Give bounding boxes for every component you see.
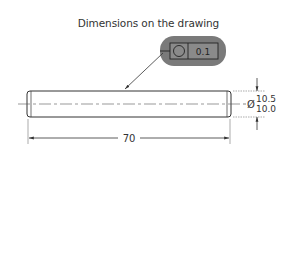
tolerance-value: 0.1 — [196, 47, 210, 57]
diameter-lower: 10.0 — [256, 104, 276, 114]
length-dimension: 70 — [28, 119, 230, 144]
length-value: 70 — [123, 133, 136, 144]
diameter-upper: 10.5 — [256, 94, 276, 104]
diameter-symbol: Ø — [247, 99, 255, 110]
leader-line — [125, 53, 163, 89]
technical-drawing: 0.1 Ø 10.5 10.0 70 — [0, 0, 297, 271]
feature-control-frame: 0.1 — [160, 36, 226, 66]
